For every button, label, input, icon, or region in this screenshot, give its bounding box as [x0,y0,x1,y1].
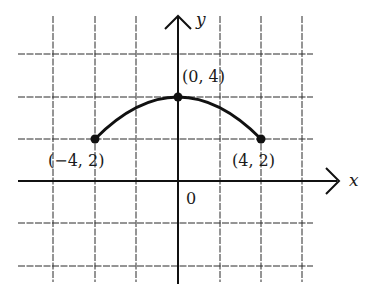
point-label-0-4: (0, 4) [182,67,225,86]
point-neg4-2 [91,135,100,144]
x-axis-label: x [349,170,359,190]
point-label-neg4-2: (−4, 2) [48,151,104,170]
point-4-2 [257,135,266,144]
point-label-4-2: (4, 2) [232,151,275,170]
grid-lines [18,16,313,282]
plot-svg: (−4, 2) (0, 4) (4, 2) 0 x y [0,0,365,289]
y-axis-label: y [195,9,206,29]
coordinate-plane-diagram: (−4, 2) (0, 4) (4, 2) 0 x y [0,0,365,289]
origin-label: 0 [186,189,196,208]
point-0-4 [174,93,183,102]
